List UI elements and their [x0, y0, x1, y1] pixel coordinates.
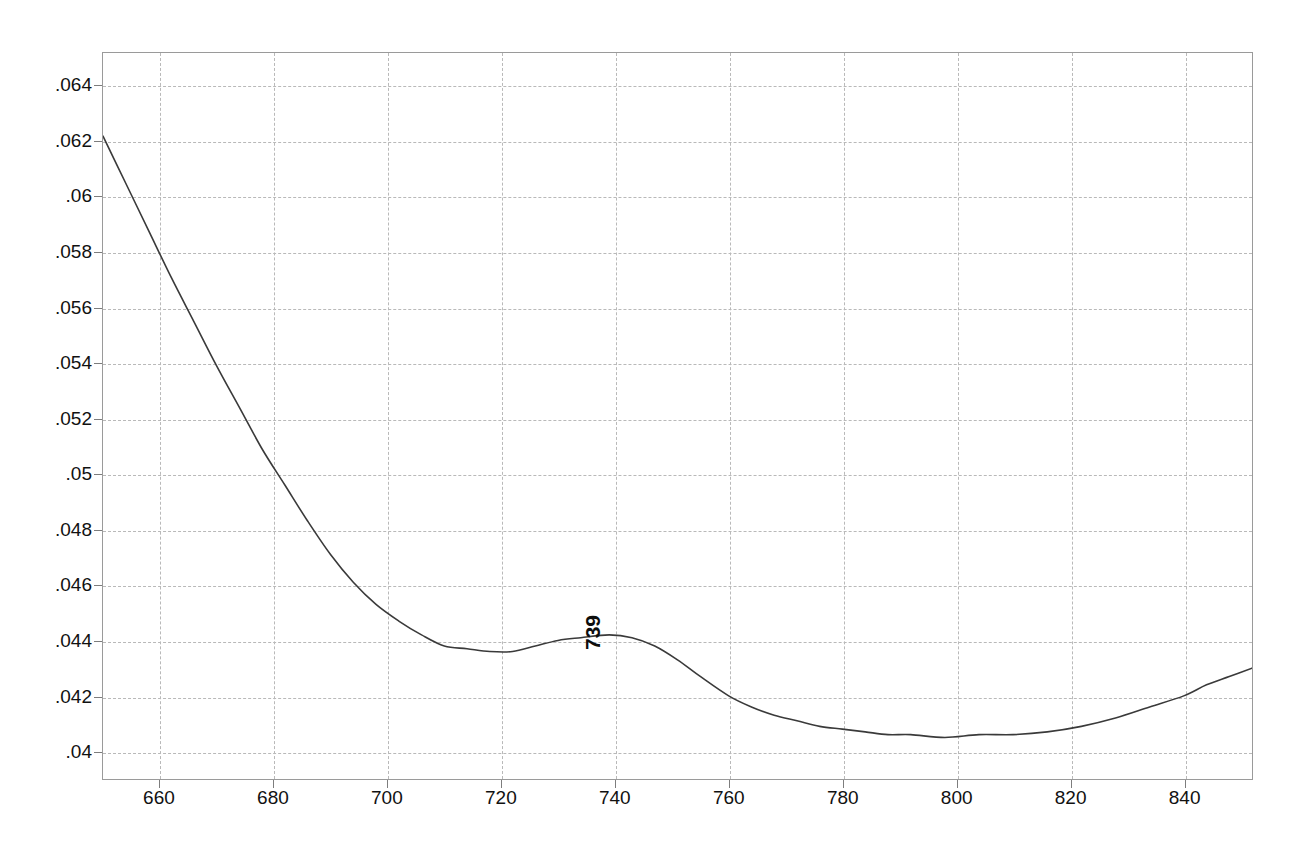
y-tick-label: .046	[55, 575, 92, 594]
x-tick-label: 700	[371, 788, 403, 807]
data-curve-svg	[103, 53, 1252, 779]
x-tick-label: 720	[485, 788, 517, 807]
x-tick-label: 840	[1169, 788, 1201, 807]
y-tick-label: .048	[55, 520, 92, 539]
y-tick-mark	[94, 419, 102, 420]
y-tick-label: .06	[66, 186, 92, 205]
y-tick-mark	[94, 252, 102, 253]
x-tick-label: 680	[257, 788, 289, 807]
y-tick-mark	[94, 697, 102, 698]
y-tick-label: .04	[66, 742, 92, 761]
x-tick-label: 820	[1055, 788, 1087, 807]
y-tick-mark	[94, 752, 102, 753]
y-tick-label: .054	[55, 353, 92, 372]
y-tick-label: .064	[55, 75, 92, 94]
x-tick-label: 780	[827, 788, 859, 807]
y-tick-label: .058	[55, 242, 92, 261]
y-tick-label: .042	[55, 687, 92, 706]
x-tick-label: 660	[143, 788, 175, 807]
y-tick-mark	[94, 308, 102, 309]
y-tick-mark	[94, 530, 102, 531]
y-tick-mark	[94, 474, 102, 475]
y-tick-label: .062	[55, 131, 92, 150]
series-line-absorbance	[103, 136, 1252, 737]
y-tick-label: .056	[55, 298, 92, 317]
y-tick-mark	[94, 85, 102, 86]
chart-root: 739 .04.042.044.046.048.05.052.054.056.0…	[0, 0, 1308, 850]
y-tick-mark	[94, 585, 102, 586]
x-tick-label: 800	[941, 788, 973, 807]
y-tick-mark	[94, 141, 102, 142]
y-tick-mark	[94, 196, 102, 197]
y-tick-mark	[94, 641, 102, 642]
y-tick-label: .044	[55, 631, 92, 650]
x-tick-label: 760	[713, 788, 745, 807]
plot-area: 739	[102, 52, 1253, 780]
y-tick-label: .05	[66, 464, 92, 483]
y-tick-label: .052	[55, 409, 92, 428]
y-tick-mark	[94, 363, 102, 364]
x-tick-label: 740	[599, 788, 631, 807]
peak-marker-739: 739	[582, 614, 603, 649]
